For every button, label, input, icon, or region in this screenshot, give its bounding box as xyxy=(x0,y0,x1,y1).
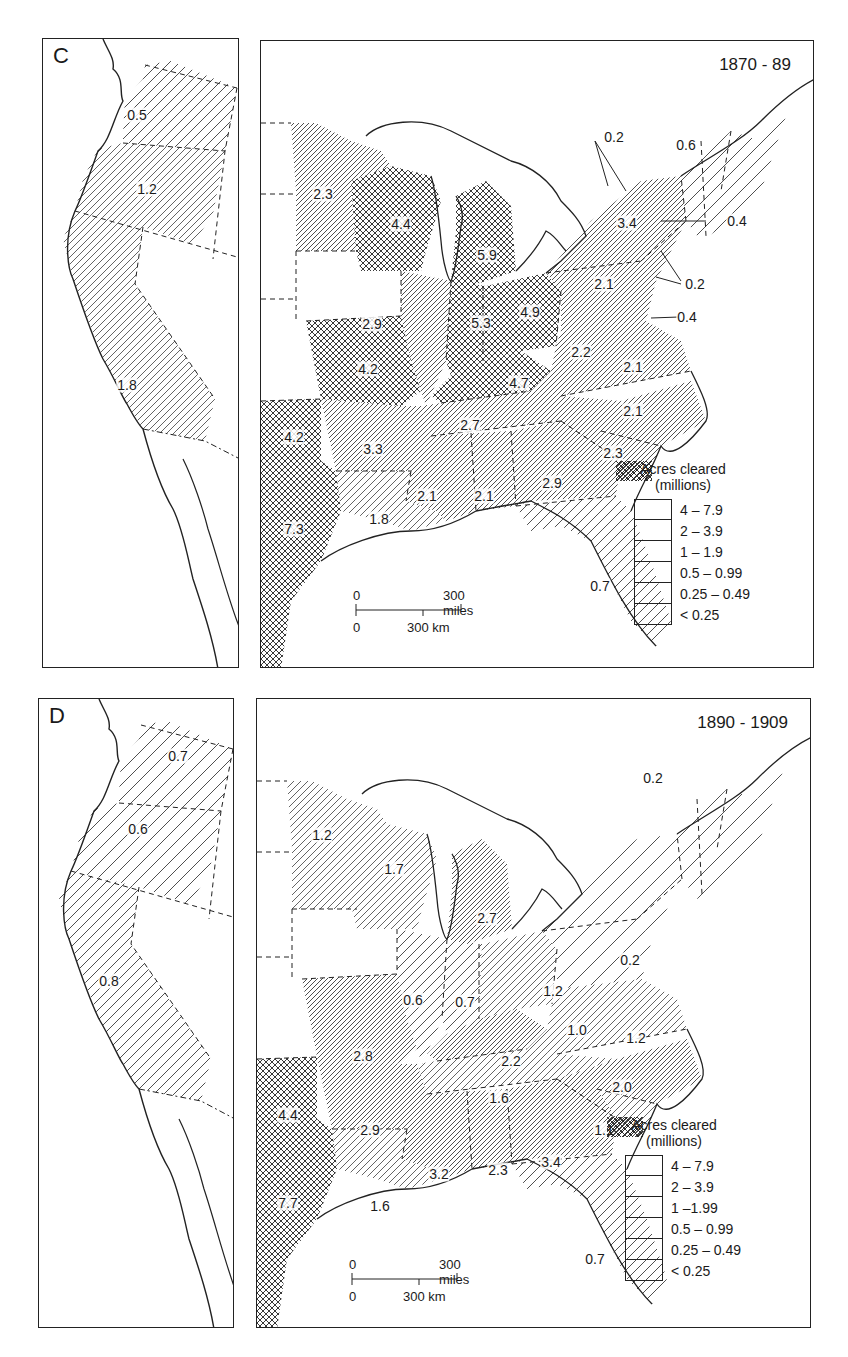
region-value-label: 2.1 xyxy=(622,360,643,375)
region-value-label: 2.3 xyxy=(312,187,333,202)
region-value-label: 2.7 xyxy=(476,911,497,926)
swatch-sparse xyxy=(625,1218,663,1239)
swatch-mid xyxy=(634,541,672,562)
region-value-label: 4.7 xyxy=(508,376,529,391)
legend-row: 4 – 7.9 xyxy=(634,499,750,520)
region-value-label: 0.7 xyxy=(584,1252,605,1267)
region-value-label: 4.9 xyxy=(519,305,540,320)
legend-c: Acres cleared (millions) 4 – 7.9 2 – 3.9… xyxy=(616,461,750,625)
region-value-label: 2.8 xyxy=(352,1049,373,1064)
region-value-label: 4.2 xyxy=(357,362,378,377)
region-value-label: 3.4 xyxy=(540,1155,561,1170)
region-value-label: 2.0 xyxy=(611,1080,632,1095)
region-value-label: 2.1 xyxy=(473,489,494,504)
period-title-c: 1870 - 89 xyxy=(719,55,791,75)
region-value-label: 0.5 xyxy=(126,108,147,123)
swatch-crosshatch xyxy=(634,499,672,520)
region-value-label: 1.8 xyxy=(368,512,389,527)
region-value-label: 2.1 xyxy=(416,489,437,504)
panel-d-east-map: 1890 - 1909 1.21.72.70.20.60.71.20.21.01… xyxy=(256,698,811,1328)
region-value-label: 2.9 xyxy=(361,317,382,332)
region-value-label: 0.4 xyxy=(676,310,697,325)
region-value-label: 1.2 xyxy=(625,1031,646,1046)
region-value-label: 5.3 xyxy=(470,316,491,331)
region-value-label: 4.2 xyxy=(283,430,304,445)
region-value-label: 2.3 xyxy=(602,446,623,461)
west-coast-map-c xyxy=(43,39,239,668)
region-value-label: 7.7 xyxy=(277,1196,298,1211)
region-value-label: 0.6 xyxy=(402,993,423,1008)
region-value-label: 3.3 xyxy=(362,442,383,457)
region-value-label: 0.6 xyxy=(127,822,148,837)
region-value-label: 5.9 xyxy=(476,248,497,263)
region-value-label: 2.2 xyxy=(570,345,591,360)
region-value-label: 0.2 xyxy=(619,953,640,968)
legend-d: Acres cleared (millions) 4 – 7.9 2 – 3.9… xyxy=(607,1117,741,1281)
legend-row: < 0.25 xyxy=(634,604,750,625)
region-value-label: 3.4 xyxy=(616,216,637,231)
region-value-label: 3.2 xyxy=(428,1167,449,1182)
panel-letter-c: C xyxy=(53,43,69,69)
region-value-label: 1.0 xyxy=(566,1023,587,1038)
region-value-label: 0.6 xyxy=(675,138,696,153)
legend-row: 0.5 – 0.99 xyxy=(634,562,750,583)
region-value-label: 0.2 xyxy=(603,130,624,145)
swatch-vsparse xyxy=(634,583,672,604)
swatch-vsparse xyxy=(625,1239,663,1260)
legend-row: 2 – 3.9 xyxy=(625,1176,741,1197)
legend-row: 0.25 – 0.49 xyxy=(634,583,750,604)
region-value-label: 0.2 xyxy=(684,277,705,292)
region-value-label: 1.2 xyxy=(311,828,332,843)
region-value-label: 4.4 xyxy=(390,217,411,232)
scale-bar-c: 0 300 miles 0 300 km xyxy=(353,588,483,638)
region-value-label: 1.8 xyxy=(116,378,137,393)
swatch-mid xyxy=(625,1197,663,1218)
region-value-label: 0.7 xyxy=(454,995,475,1010)
legend-row: 1 – 1.9 xyxy=(634,541,750,562)
region-value-label: 2.1 xyxy=(593,277,614,292)
region-value-label: 2.3 xyxy=(487,1163,508,1178)
region-value-label: 2.9 xyxy=(541,476,562,491)
legend-row: < 0.25 xyxy=(625,1260,741,1281)
region-value-label: 1.2 xyxy=(136,182,157,197)
swatch-dense xyxy=(634,520,672,541)
swatch-dense xyxy=(625,1176,663,1197)
legend-row: 2 – 3.9 xyxy=(634,520,750,541)
region-value-label: 1.6 xyxy=(488,1091,509,1106)
region-value-label: 0.8 xyxy=(98,974,119,989)
region-value-label: 1.2 xyxy=(542,984,563,999)
region-value-label: 1.6 xyxy=(369,1199,390,1214)
panel-c-east-map: 1870 - 89 2.34.45.92.95.34.92.14.24.72.2… xyxy=(260,40,814,668)
legend-row: 4 – 7.9 xyxy=(625,1155,741,1176)
swatch-xsparse xyxy=(634,604,672,625)
panel-letter-d: D xyxy=(49,703,65,729)
region-value-label: 2.9 xyxy=(359,1123,380,1138)
period-title-d: 1890 - 1909 xyxy=(697,713,788,733)
scale-bar-d: 0 300 miles 0 300 km xyxy=(349,1257,479,1307)
region-value-label: 0.4 xyxy=(726,214,747,229)
region-value-label: 0.7 xyxy=(167,749,188,764)
west-coast-map-d xyxy=(39,699,234,1328)
region-value-label: 4.4 xyxy=(277,1108,298,1123)
region-value-label: 0.7 xyxy=(589,579,610,594)
swatch-sparse xyxy=(634,562,672,583)
region-value-label: 0.2 xyxy=(642,771,663,786)
legend-row: 0.5 – 0.99 xyxy=(625,1218,741,1239)
legend-row: 0.25 – 0.49 xyxy=(625,1239,741,1260)
region-value-label: 2.1 xyxy=(622,404,643,419)
region-value-label: 1.7 xyxy=(383,862,404,877)
swatch-xsparse xyxy=(625,1260,663,1281)
swatch-crosshatch xyxy=(625,1155,663,1176)
panel-d-west-map: D 0.70.60.8 xyxy=(38,698,234,1328)
region-value-label: 7.3 xyxy=(283,522,304,537)
region-value-label: 2.7 xyxy=(459,418,480,433)
panel-c-west-map: C 0.51.21.8 xyxy=(42,38,239,668)
region-value-label: 2.2 xyxy=(500,1054,521,1069)
legend-row: 1 –1.99 xyxy=(625,1197,741,1218)
